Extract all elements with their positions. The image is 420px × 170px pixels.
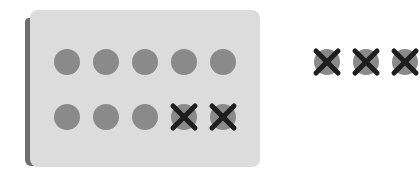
dot-card <box>30 10 260 167</box>
cross-icon <box>208 102 238 132</box>
crossed-circle <box>210 104 236 130</box>
crossed-circle <box>353 49 379 75</box>
cross-icon <box>351 47 381 77</box>
circle <box>93 49 119 75</box>
circle <box>93 104 119 130</box>
cross-icon <box>312 47 342 77</box>
circle <box>132 104 158 130</box>
circle <box>54 104 80 130</box>
cross-icon <box>390 47 420 77</box>
cross-icon <box>169 102 199 132</box>
circle <box>210 49 236 75</box>
crossed-circle <box>171 104 197 130</box>
circle <box>171 49 197 75</box>
circle <box>132 49 158 75</box>
circle <box>54 49 80 75</box>
crossed-circle <box>314 49 340 75</box>
crossed-circle <box>392 49 418 75</box>
